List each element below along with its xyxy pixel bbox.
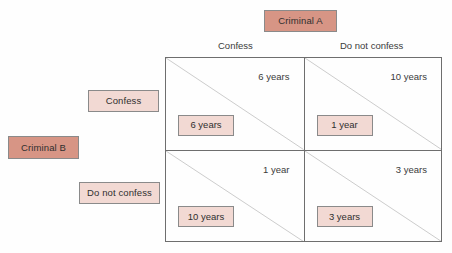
- row-payoff-value: 10 years: [178, 206, 234, 227]
- matrix-cell-confess-do-not-confess: 10 years 1 year: [304, 58, 442, 150]
- matrix-cell-do-not-confess-do-not-confess: 3 years 3 years: [304, 150, 442, 242]
- row-payoff-value: 3 years: [317, 206, 373, 227]
- column-payoff-value: 3 years: [396, 165, 427, 175]
- column-payoff-value: 10 years: [391, 72, 427, 82]
- row-header-confess: Confess: [88, 90, 159, 112]
- diagram-canvas: Criminal A Confess Do not confess Crimin…: [0, 0, 452, 253]
- column-header-confess: Confess: [218, 41, 253, 51]
- column-header-do-not-confess: Do not confess: [340, 41, 403, 51]
- row-header-do-not-confess: Do not confess: [79, 182, 160, 204]
- column-player-label: Criminal A: [264, 10, 337, 32]
- matrix-cell-do-not-confess-confess: 1 year 10 years: [166, 150, 304, 242]
- column-payoff-value: 1 year: [263, 165, 289, 175]
- matrix-cell-confess-confess: 6 years 6 years: [166, 58, 304, 150]
- row-player-label: Criminal B: [8, 136, 79, 159]
- row-payoff-value: 1 year: [317, 115, 373, 136]
- row-payoff-value: 6 years: [178, 115, 234, 136]
- payoff-matrix: 6 years 6 years 10 years 1 year 1 year 1…: [165, 57, 442, 242]
- column-payoff-value: 6 years: [258, 72, 289, 82]
